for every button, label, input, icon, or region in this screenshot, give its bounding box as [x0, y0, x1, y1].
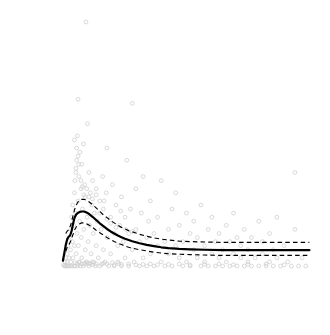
- plot-background: [0, 0, 330, 335]
- scatter-plot-canvas: [0, 0, 330, 335]
- chart-figure: [0, 0, 330, 335]
